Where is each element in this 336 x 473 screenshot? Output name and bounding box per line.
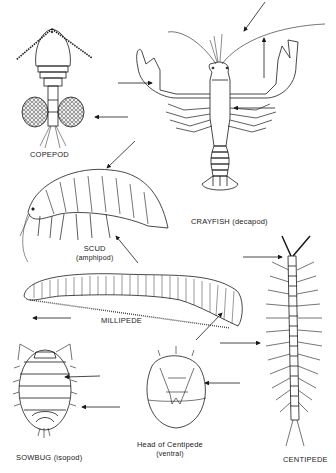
centipede-head-name: Head of Centipede — [137, 440, 203, 449]
centipede-drawing — [266, 236, 322, 446]
sowbug-label: SOWBUG (isopod) — [16, 453, 82, 462]
scud-name: SCUD — [84, 244, 106, 253]
copepod-label: COPEPOD — [30, 150, 69, 159]
centipede-label: CENTIPEDE — [283, 455, 328, 464]
scud-label: SCUD (amphipod) — [76, 244, 113, 262]
centipede-head-drawing — [147, 346, 206, 428]
scud-sublabel: (amphipod) — [76, 253, 113, 262]
millipede-label: MILLIPEDE — [101, 316, 142, 325]
crayfish-label: CRAYFISH (decapod) — [191, 217, 268, 226]
crayfish-drawing — [137, 24, 325, 190]
centipede-head-sublabel: (ventral) — [137, 449, 203, 458]
sowbug-drawing — [13, 344, 77, 438]
copepod-drawing — [16, 29, 92, 148]
centipede-head-label: Head of Centipede (ventral) — [137, 440, 203, 458]
arthropod-diagram — [0, 0, 336, 473]
